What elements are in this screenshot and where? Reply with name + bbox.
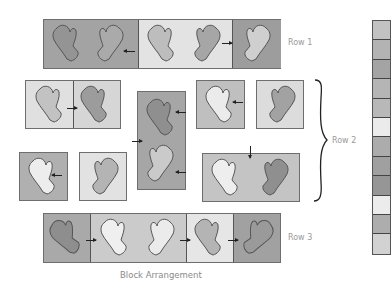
- row-2-cell: [74, 81, 120, 128]
- mitten-icon: [203, 85, 235, 125]
- arrow-right-icon: [228, 240, 238, 241]
- mitten-icon: [144, 144, 176, 184]
- mitten-icon: [78, 85, 110, 125]
- row-1-cell-1: [44, 20, 139, 68]
- color-strip: [372, 20, 391, 255]
- row-2-cell: [26, 81, 74, 128]
- row-2-label: Row 2: [332, 136, 356, 145]
- mitten-icon: [94, 24, 126, 64]
- row-2-pair-horizontal-right: [202, 153, 300, 202]
- arrow-left-icon: [176, 112, 186, 113]
- arrow-right-icon: [180, 240, 190, 241]
- strip-square: [373, 234, 390, 253]
- row-3-cell-4: [234, 214, 280, 262]
- mitten-icon: [145, 24, 177, 64]
- arrow-left-icon: [233, 102, 243, 103]
- strip-square: [373, 215, 390, 234]
- strip-square: [373, 60, 390, 79]
- row-1-label: Row 1: [288, 38, 312, 47]
- arrow-left-icon: [52, 175, 62, 176]
- row-3-block: [43, 213, 281, 263]
- row-3-cell-2: [91, 214, 187, 262]
- mitten-icon: [209, 158, 241, 198]
- strip-square: [373, 40, 390, 59]
- row-1-block: [43, 19, 281, 69]
- row-2-pair-vertical-center: [137, 91, 186, 190]
- strip-square: [373, 21, 390, 40]
- mitten-icon: [192, 218, 224, 258]
- arrow-left-icon: [124, 51, 135, 52]
- mitten-icon: [33, 85, 65, 125]
- arrow-right-icon: [86, 240, 96, 241]
- mitten-icon: [145, 218, 177, 258]
- row-2-single-bottom-left-1: [19, 152, 68, 201]
- row-2-single-bottom-left-2: [79, 152, 127, 201]
- mitten-icon: [266, 85, 298, 125]
- arrow-right-icon: [67, 108, 77, 109]
- row-2-single-top-right-2: [256, 80, 304, 129]
- mitten-icon: [44, 215, 85, 262]
- mitten-icon: [50, 24, 82, 64]
- mitten-icon: [241, 24, 273, 64]
- mitten-icon: [98, 218, 130, 258]
- arrow-right-icon: [222, 43, 232, 44]
- row-1-cell-3: [233, 20, 281, 68]
- row-3-label: Row 3: [288, 233, 312, 242]
- strip-square: [373, 157, 390, 176]
- mitten-icon: [26, 157, 58, 197]
- strip-square: [373, 99, 390, 118]
- mitten-icon: [237, 215, 278, 262]
- strip-square: [373, 196, 390, 215]
- row-3-cell-3: [187, 214, 234, 262]
- arrow-right-icon: [132, 141, 142, 142]
- strip-square: [373, 79, 390, 98]
- arrow-left-icon: [176, 172, 186, 173]
- mitten-icon: [144, 98, 176, 138]
- row-2-pair-horizontal-left: [25, 80, 121, 129]
- row-3-cell-1: [44, 214, 91, 262]
- row-2-single-top-right-1: [196, 80, 245, 129]
- mitten-icon: [259, 158, 291, 198]
- strip-square: [373, 118, 390, 137]
- arrow-down-icon: [250, 146, 251, 158]
- strip-square: [373, 176, 390, 195]
- mitten-icon: [89, 157, 121, 197]
- strip-square: [373, 137, 390, 156]
- row-2-brace-icon: [312, 78, 330, 203]
- block-arrangement-caption: Block Arrangement: [120, 270, 202, 280]
- row-1-cell-2: [139, 20, 233, 68]
- mitten-icon: [191, 24, 223, 64]
